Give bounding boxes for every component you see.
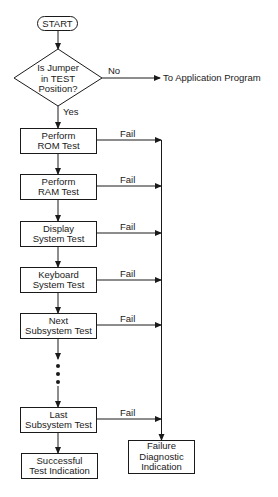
- start-label: START: [42, 18, 72, 29]
- fail-label-last: Fail: [120, 407, 135, 418]
- fail-label-keyboard: Fail: [120, 268, 135, 279]
- continuation-dot: [56, 380, 60, 384]
- display-test-step: Display System Test: [20, 221, 97, 247]
- ram-test-step: Perform RAM Test: [20, 174, 97, 200]
- next-subsystem-test-step: Next Subsystem Test: [20, 313, 97, 339]
- decision-text: Is Jumper in TEST Position?: [28, 63, 88, 95]
- flowchart-canvas: START Is Jumper in TEST Position? No Yes…: [0, 0, 278, 497]
- successful-test-indication: Successful Test Indication: [21, 453, 98, 479]
- keyboard-test-step: Keyboard System Test: [20, 267, 97, 293]
- continuation-dot: [56, 364, 60, 368]
- failure-diagnostic-indication: Failure Diagnostic Indication: [128, 440, 195, 474]
- fail-label-rom: Fail: [120, 128, 135, 139]
- yes-label: Yes: [63, 107, 79, 118]
- fail-label-display: Fail: [120, 221, 135, 232]
- fail-label-ram: Fail: [120, 174, 135, 185]
- last-subsystem-test-step: Last Subsystem Test: [20, 407, 97, 433]
- start-terminal: START: [37, 16, 78, 31]
- continuation-dot: [56, 372, 60, 376]
- fail-label-next: Fail: [120, 313, 135, 324]
- no-label: No: [108, 66, 120, 77]
- application-program-label: To Application Program: [163, 73, 261, 84]
- rom-test-step: Perform ROM Test: [20, 128, 97, 154]
